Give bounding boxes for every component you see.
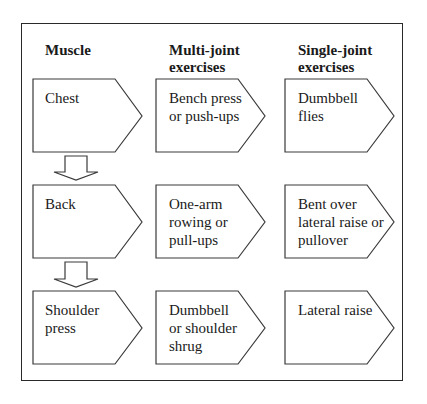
- label-single-joint: lateral raise or: [298, 213, 384, 231]
- label-multi-joint: or push-ups: [169, 107, 239, 125]
- header-multi-joint-line2: exercises: [169, 58, 225, 76]
- label-multi-joint: One-arm: [169, 195, 222, 213]
- label-multi-joint: Bench press: [169, 89, 242, 107]
- label-single-joint: Dumbbell: [298, 89, 358, 107]
- label-muscle: Shoulder: [45, 301, 99, 319]
- header-single-joint-line2: exercises: [298, 58, 354, 76]
- down-arrow-icon: [54, 262, 98, 287]
- header-muscle: Muscle: [45, 41, 91, 59]
- label-single-joint: pullover: [298, 231, 348, 249]
- label-multi-joint: Dumbbell: [169, 301, 229, 319]
- label-multi-joint: shrug: [169, 337, 202, 355]
- label-multi-joint: rowing or: [169, 213, 228, 231]
- label-single-joint: Bent over: [298, 195, 357, 213]
- label-single-joint: flies: [298, 107, 324, 125]
- label-single-joint: Lateral raise: [298, 301, 373, 319]
- label-multi-joint: or shoulder: [169, 319, 237, 337]
- label-muscle: Back: [45, 195, 76, 213]
- down-arrow-icon: [54, 156, 98, 180]
- header-multi-joint-line1: Multi-joint: [169, 41, 240, 59]
- label-multi-joint: pull-ups: [169, 231, 218, 249]
- label-muscle: Chest: [45, 89, 79, 107]
- label-muscle: press: [45, 319, 76, 337]
- header-single-joint-line1: Single-joint: [298, 41, 372, 59]
